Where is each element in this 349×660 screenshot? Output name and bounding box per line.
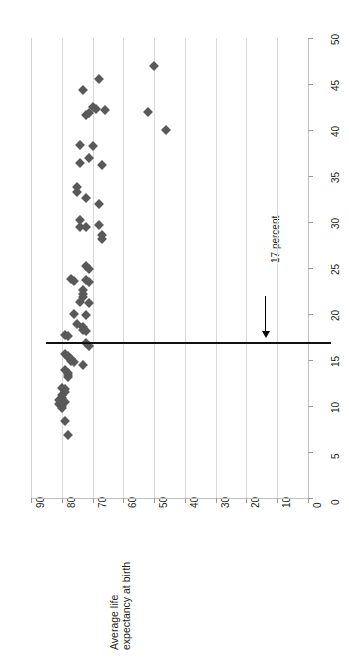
tick-percent-5 [308,452,313,453]
tick-life-10 [277,498,278,503]
data-point [94,74,104,84]
data-point [94,199,104,209]
annotation-arrow-head [262,331,270,338]
data-point [75,158,85,168]
axis-title-life-expectancy: Average life expectancy at birth [108,562,132,650]
tick-life-70 [93,498,94,503]
tick-label-percent-5: 5 [330,453,341,459]
data-point [75,140,85,150]
data-point [88,141,98,151]
annotation-arrow-shaft [265,296,266,333]
tick-life-90 [31,498,32,503]
tick-percent-35 [308,176,313,177]
tick-label-percent-25: 25 [330,264,341,275]
data-point [81,310,91,320]
tick-percent-50 [308,38,313,39]
data-point [161,125,171,135]
tick-label-percent-20: 20 [330,310,341,321]
data-point [78,85,88,95]
gridline-life-10 [277,38,278,498]
gridline-life-50 [154,38,155,498]
data-point [97,160,107,170]
data-point [143,107,153,117]
tick-percent-45 [308,84,313,85]
data-point [81,222,91,232]
tick-percent-30 [308,222,313,223]
tick-percent-40 [308,130,313,131]
tick-life-20 [246,498,247,503]
data-point [149,61,159,71]
tick-label-percent-35: 35 [330,172,341,183]
tick-label-percent-15: 15 [330,356,341,367]
data-point [69,309,79,319]
tick-label-percent-45: 45 [330,80,341,91]
gridline-life-80 [62,38,63,498]
gridline-life-90 [31,38,32,498]
reference-line-annotation: 17 percent [270,216,281,263]
tick-percent-20 [308,314,313,315]
gridline-life-40 [185,38,186,498]
data-point [78,360,88,370]
tick-life-40 [185,498,186,503]
tick-percent-15 [308,360,313,361]
tick-label-percent-50: 50 [330,34,341,45]
tick-label-life-0: 0 [312,502,323,508]
gridline-life-60 [123,38,124,498]
tick-life-30 [216,498,217,503]
data-point [63,430,73,440]
chart-canvas: 9080706050403020100 05101520253035404550… [0,0,349,660]
gridline-life-20 [246,38,247,498]
tick-label-percent-40: 40 [330,126,341,137]
reference-line-17-percent [46,342,331,345]
axis-spine-life [31,498,312,499]
axis-title-line-1: Average life [108,562,120,650]
tick-life-80 [62,498,63,503]
data-point [94,220,104,230]
tick-label-percent-30: 30 [330,218,341,229]
gridline-life-30 [216,38,217,498]
tick-percent-25 [308,268,313,269]
tick-life-50 [154,498,155,503]
data-point [81,193,91,203]
axis-title-line-2: expectancy at birth [120,562,132,650]
tick-percent-0 [308,498,313,499]
tick-label-percent-10: 10 [330,402,341,413]
tick-life-60 [123,498,124,503]
tick-percent-10 [308,406,313,407]
tick-label-percent-0: 0 [330,499,341,505]
data-point [100,105,110,115]
